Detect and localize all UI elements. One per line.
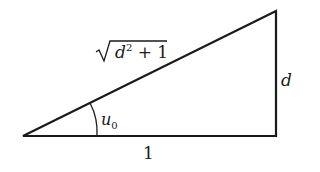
right-triangle (23, 11, 276, 136)
hypotenuse-label: d2 + 1 (115, 42, 168, 62)
horizontal-side-label: 1 (143, 143, 154, 163)
hyp-rest: + 1 (132, 42, 168, 62)
hyp-var: d (115, 42, 126, 62)
vertical-side-label: d (281, 70, 292, 90)
angle-var: u (101, 110, 111, 129)
angle-subscript: 0 (111, 120, 117, 131)
angle-label: u0 (101, 110, 118, 131)
angle-arc (90, 103, 97, 136)
